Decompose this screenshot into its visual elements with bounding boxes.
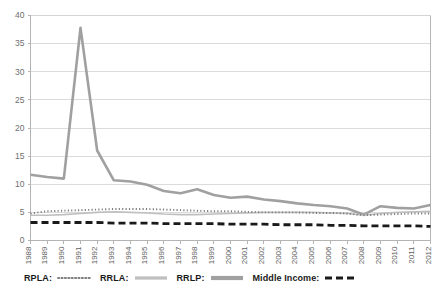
y-axis-tick-label: 25 xyxy=(15,95,25,105)
legend-entry: RPLA: xyxy=(24,273,91,283)
legend-label: RPLA: xyxy=(24,273,52,283)
y-axis-tick-label: 5 xyxy=(20,207,25,217)
y-axis-tick-label: 20 xyxy=(15,123,25,133)
legend-label: RRLP: xyxy=(177,273,205,283)
legend-entry: RRLA: xyxy=(100,273,168,283)
legend-swatch-rpla xyxy=(57,273,91,283)
chart-canvas: 0510152025303540198819891990199119921993… xyxy=(0,0,435,250)
legend-label: Middle Income: xyxy=(253,273,320,283)
series-line-middle-income xyxy=(31,223,431,227)
legend-swatch-rrla xyxy=(134,273,168,283)
legend-swatch-svg xyxy=(134,273,168,283)
series-line-rrlp xyxy=(31,28,431,215)
y-axis-tick-label: 0 xyxy=(20,235,25,245)
y-axis-tick-label: 15 xyxy=(15,151,25,161)
y-axis-tick-label: 10 xyxy=(15,179,25,189)
legend-swatch-svg xyxy=(210,273,244,283)
plot-area: 0510152025303540198819891990199119921993… xyxy=(0,0,435,250)
legend-swatch-svg xyxy=(57,273,91,283)
legend-swatch-middle-income xyxy=(324,273,358,283)
legend-entry: Middle Income: xyxy=(253,273,359,283)
chart-legend: RPLA:RRLA:RRLP:Middle Income: xyxy=(0,262,435,294)
legend-label: RRLA: xyxy=(100,273,129,283)
legend-swatch-rrlp xyxy=(210,273,244,283)
y-axis-tick-label: 30 xyxy=(15,67,25,77)
y-axis-tick-label: 40 xyxy=(15,10,25,20)
legend-entry: RRLP: xyxy=(177,273,244,283)
line-chart: 0510152025303540198819891990199119921993… xyxy=(0,0,435,294)
legend-swatch-svg xyxy=(324,273,358,283)
y-axis-tick-label: 35 xyxy=(15,38,25,48)
